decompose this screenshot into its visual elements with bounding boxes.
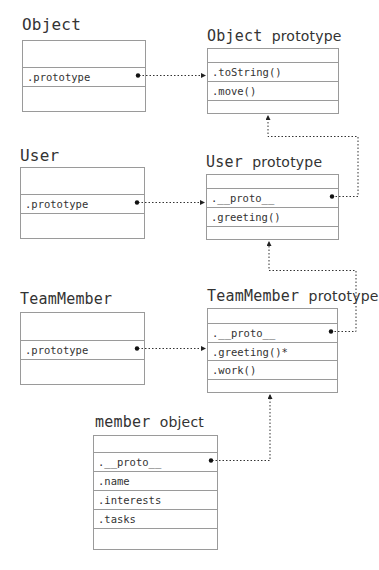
arrow-member-to-tmproto: [212, 395, 270, 461]
arrow-userproto-to-objectproto: [268, 116, 358, 197]
dot-icon: [136, 73, 140, 77]
arrow-tmproto-to-userproto: [269, 242, 356, 332]
dot-icon: [209, 458, 213, 462]
dot-icon: [330, 194, 334, 198]
dot-icon: [329, 329, 333, 333]
dot-icon: [135, 346, 139, 350]
dot-icon: [135, 200, 139, 204]
